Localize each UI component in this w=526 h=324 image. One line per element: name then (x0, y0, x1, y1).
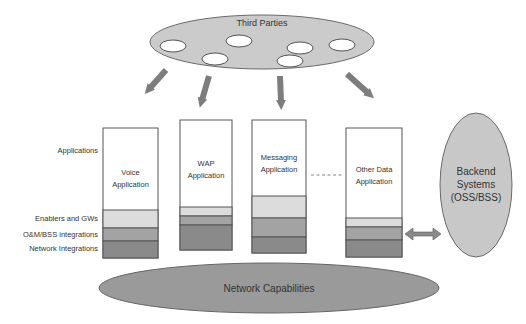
third-party-member (277, 55, 303, 67)
backend-line3: (OSS/BSS) (451, 192, 502, 203)
backend-systems: Backend Systems (OSS/BSS) (440, 113, 512, 257)
messaging-title-line2: Application (261, 165, 298, 174)
arrows-group (150, 70, 368, 102)
messaging-network-layer (252, 237, 306, 253)
voice-om-layer (103, 228, 158, 241)
third-party-member (226, 35, 252, 47)
other-title-line2: Application (356, 177, 393, 186)
column-voice: Voice Application (103, 128, 158, 258)
column-other-data: Other Data Application (346, 128, 402, 257)
layer-labels: Applications Enablers and GWs O&M/BSS in… (23, 146, 98, 253)
backend-line1: Backend (457, 166, 496, 177)
label-enablers: Enablers and GWs (35, 214, 98, 223)
bidirectional-arrow-icon (405, 228, 441, 240)
arrow-to-wap-icon (202, 76, 209, 100)
wap-title-line2: Application (188, 171, 225, 180)
voice-title-line2: Application (112, 180, 149, 189)
column-wap: WAP Application (180, 120, 232, 250)
wap-om-layer (180, 216, 232, 225)
network-capabilities: Network Capabilities (99, 263, 439, 313)
network-capabilities-label: Network Capabilities (223, 283, 314, 294)
arrow-to-other-data-icon (347, 74, 368, 93)
column-messaging: Messaging Application (252, 120, 306, 253)
label-network-integrations: Network Integrations (29, 244, 98, 253)
messaging-enablers-layer (252, 196, 306, 218)
voice-network-layer (103, 241, 158, 258)
other-title-line1: Other Data (356, 165, 394, 174)
third-party-member (160, 40, 186, 52)
wap-enablers-layer (180, 207, 232, 216)
third-parties-group: Third Parties (150, 15, 374, 69)
third-party-member (329, 39, 355, 51)
architecture-diagram: Third Parties Applications Enablers and … (0, 0, 526, 324)
voice-enablers-layer (103, 210, 158, 228)
third-party-member (202, 53, 228, 65)
other-network-layer (346, 240, 402, 257)
other-enablers-layer (346, 218, 402, 227)
messaging-om-layer (252, 218, 306, 237)
wap-title-line1: WAP (198, 159, 215, 168)
other-om-layer (346, 227, 402, 240)
third-parties-label: Third Parties (236, 18, 288, 28)
label-om-bss: O&M/BSS integrations (23, 230, 98, 239)
third-party-member (287, 42, 313, 54)
voice-title-line1: Voice (121, 168, 139, 177)
label-applications: Applications (58, 146, 99, 155)
arrow-to-messaging-icon (280, 76, 281, 102)
arrow-to-voice-icon (150, 70, 166, 88)
wap-network-layer (180, 225, 232, 250)
backend-line2: Systems (457, 179, 495, 190)
messaging-title-line1: Messaging (261, 153, 297, 162)
